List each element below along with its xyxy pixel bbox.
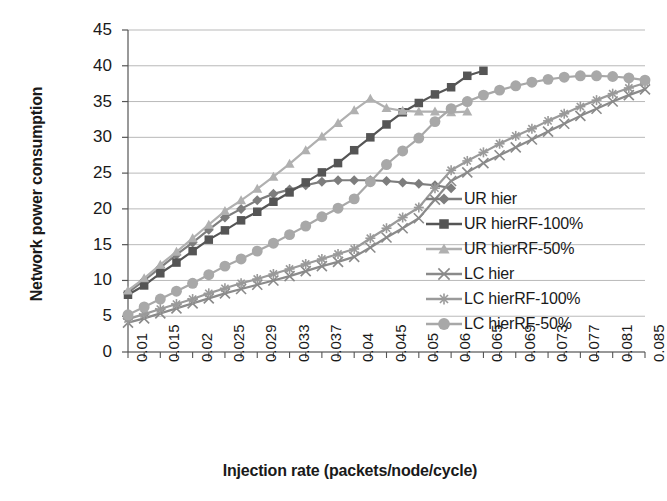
x-tick-label: 0.04 — [360, 333, 375, 362]
marker-circle — [284, 229, 295, 240]
marker-circle — [252, 246, 263, 257]
marker-circle — [187, 278, 198, 289]
legend-item-lc-hierrf-100[interactable]: LC hierRF-100% — [424, 286, 583, 311]
data-point-asterisk — [414, 202, 424, 212]
data-point-square — [253, 208, 262, 217]
marker-circle — [203, 269, 214, 280]
data-point-asterisk — [252, 274, 262, 284]
x-tick-label: 0.081 — [619, 324, 634, 362]
y-tick-label: 20 — [72, 200, 112, 217]
data-point-circle — [397, 145, 408, 156]
data-point-circle — [462, 96, 473, 107]
x-tick-label: 0.085 — [651, 324, 666, 362]
data-point-square — [439, 219, 449, 229]
data-point-asterisk — [575, 102, 585, 112]
data-point-asterisk — [365, 233, 375, 243]
data-point-asterisk — [333, 249, 343, 259]
x-tick-label: 0.015 — [166, 324, 181, 362]
data-point-triangle — [220, 206, 230, 215]
marker-diamond — [333, 175, 343, 185]
marker-circle — [478, 90, 489, 101]
legend-item-lc-hierrf-50[interactable]: LC hierRF-50% — [424, 311, 583, 336]
marker-square — [237, 216, 246, 225]
marker-circle — [640, 75, 651, 86]
data-point-circle — [187, 278, 198, 289]
x-tick-label: 0.02 — [199, 333, 214, 362]
data-point-square — [334, 159, 343, 168]
marker-triangle — [382, 103, 392, 112]
data-point-square — [188, 247, 197, 256]
legend-item-ur-hierrf-100[interactable]: UR hierRF-100% — [424, 211, 583, 236]
marker-circle — [397, 145, 408, 156]
marker-circle — [171, 286, 182, 297]
legend-label: LC hierRF-50% — [464, 316, 572, 332]
data-point-circle — [333, 203, 344, 214]
x-tick-label: 0.05 — [425, 333, 440, 362]
data-point-asterisk — [438, 293, 449, 304]
data-point-asterisk — [495, 139, 505, 149]
marker-square — [479, 67, 488, 76]
marker-diamond — [268, 189, 278, 199]
data-point-circle — [219, 261, 230, 272]
data-point-circle — [413, 133, 424, 144]
data-point-circle — [446, 103, 457, 114]
legend-item-lc-hier[interactable]: LC hier — [424, 261, 583, 286]
data-point-square — [447, 83, 456, 92]
data-point-square — [269, 197, 278, 206]
data-point-asterisk — [236, 278, 246, 288]
data-point-x — [365, 243, 375, 253]
data-point-asterisk — [446, 165, 456, 175]
data-point-asterisk — [462, 156, 472, 166]
y-tick-label: 15 — [72, 236, 112, 253]
x-axis-title: Injection rate (packets/node/cycle) — [120, 462, 580, 480]
data-point-circle — [268, 238, 279, 249]
legend-label: LC hier — [464, 266, 514, 282]
data-point-circle — [284, 229, 295, 240]
marker-square — [156, 269, 165, 278]
data-point-circle — [526, 77, 537, 88]
marker-circle — [430, 116, 441, 127]
marker-triangle — [365, 94, 375, 103]
marker-circle — [155, 294, 166, 305]
data-point-x — [495, 150, 505, 160]
marker-circle — [446, 103, 457, 114]
marker-square — [334, 159, 343, 168]
y-tick-label: 10 — [72, 271, 112, 288]
marker-circle — [510, 80, 521, 91]
data-point-circle — [478, 90, 489, 101]
data-point-circle — [252, 246, 263, 257]
legend-label: UR hier — [464, 191, 517, 207]
data-point-asterisk — [382, 223, 392, 233]
data-point-x — [575, 111, 585, 121]
legend-key-asterisk-icon — [424, 288, 464, 310]
data-point-square — [156, 269, 165, 278]
data-point-x — [478, 158, 488, 168]
data-point-diamond — [333, 175, 343, 185]
legend-key-x-icon — [424, 263, 464, 285]
data-point-circle — [640, 75, 651, 86]
marker-square — [221, 226, 230, 235]
marker-diamond — [398, 177, 408, 187]
marker-square — [188, 247, 197, 256]
data-point-asterisk — [608, 89, 618, 99]
marker-diamond — [438, 193, 449, 204]
data-point-square — [301, 178, 310, 187]
data-point-diamond — [349, 175, 359, 185]
marker-circle — [462, 96, 473, 107]
data-point-circle — [494, 85, 505, 96]
data-point-x — [398, 223, 408, 233]
data-point-triangle — [382, 103, 392, 112]
data-point-diamond — [382, 176, 392, 186]
data-point-circle — [381, 159, 392, 170]
marker-circle — [300, 221, 311, 232]
data-point-diamond — [252, 195, 262, 205]
data-point-square — [366, 133, 375, 142]
data-point-asterisk — [188, 294, 198, 304]
data-point-asterisk — [349, 244, 359, 254]
legend-item-ur-hierrf-50[interactable]: UR hierRF-50% — [424, 236, 583, 261]
legend-label: UR hierRF-100% — [464, 216, 583, 232]
data-point-asterisk — [317, 254, 327, 264]
marker-triangle — [220, 206, 230, 215]
legend-item-ur-hier[interactable]: UR hier — [424, 186, 583, 211]
